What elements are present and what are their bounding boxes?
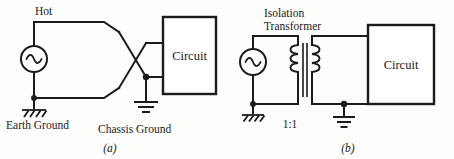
earth-ground-hatch-3-a xyxy=(36,111,41,118)
neutral-wire-diagonal xyxy=(119,43,146,88)
hot-wire-top-segment xyxy=(34,22,119,46)
transformer-primary-coil-b xyxy=(291,45,299,72)
circuit-box-label-b: Circuit xyxy=(384,58,419,72)
hot-wire-diagonal xyxy=(119,32,146,77)
circuit-diagram-canvas: Hot Earth Ground xyxy=(0,0,454,159)
neutral-wire-bottom-segment xyxy=(34,72,119,98)
isolation-transformer-label-line2: Transformer xyxy=(264,20,321,32)
secondary-top-wire-b xyxy=(312,36,368,45)
panel-b-group: Isolation Transformer xyxy=(240,7,434,155)
transformer-secondary-coil-b xyxy=(312,45,320,72)
earth-ground-hatch-1-b xyxy=(244,116,249,122)
turns-ratio-label-b: 1:1 xyxy=(283,118,298,130)
primary-bottom-wire-b xyxy=(253,75,298,104)
panel-a-group: Hot Earth Ground xyxy=(6,5,216,155)
hot-label: Hot xyxy=(35,5,53,17)
panel-b-caption: (b) xyxy=(341,142,355,155)
isolation-transformer-label-line1: Isolation xyxy=(264,7,304,19)
earth-ground-hatch-4-a xyxy=(42,111,47,118)
earth-ground-hatch-2-b xyxy=(249,116,254,122)
circuit-box-label-a: Circuit xyxy=(172,49,207,63)
earth-ground-hatch-3-b xyxy=(255,116,260,122)
earth-ground-label-a: Earth Ground xyxy=(6,119,69,131)
secondary-bottom-wire-b xyxy=(312,72,368,104)
circuit-figure: Hot Earth Ground xyxy=(0,0,454,159)
earth-ground-hatch-2-a xyxy=(30,111,35,118)
earth-ground-hatch-4-b xyxy=(260,116,265,122)
earth-ground-hatch-1-a xyxy=(24,111,29,118)
chassis-ground-label-a: Chassis Ground xyxy=(98,123,171,135)
panel-a-caption: (a) xyxy=(103,142,117,155)
